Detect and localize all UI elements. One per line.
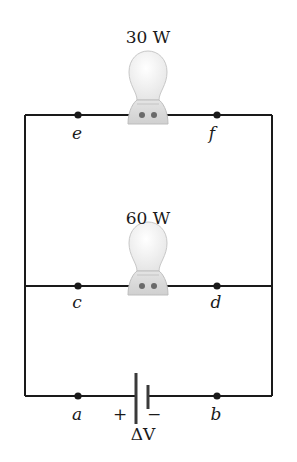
node-b-dot [213, 392, 220, 399]
node-c-dot [74, 282, 81, 289]
circuit-svg [0, 0, 297, 462]
node-c-label: c [72, 292, 82, 312]
node-d-label: d [211, 292, 222, 312]
battery-minus-label: − [147, 404, 161, 424]
battery-plus-label: + [113, 404, 127, 424]
bulb-60w [128, 222, 168, 295]
bulb-60w-label: 60 W [126, 208, 171, 228]
circuit-diagram: 30 W 60 W e f c d a b + − ΔV [0, 0, 297, 462]
node-d-dot [213, 282, 220, 289]
bulb-30w-label: 30 W [126, 27, 171, 47]
node-f-label: f [209, 123, 215, 143]
node-a-dot [74, 392, 81, 399]
bulb-30w [128, 51, 168, 124]
node-b-label: b [211, 404, 222, 424]
node-e-dot [74, 111, 81, 118]
node-a-label: a [72, 404, 82, 424]
node-f-dot [213, 111, 220, 118]
node-e-label: e [72, 123, 82, 143]
battery-voltage-label: ΔV [131, 424, 156, 444]
